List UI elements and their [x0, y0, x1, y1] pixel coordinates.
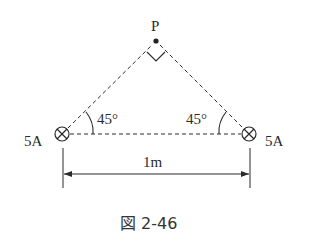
point-p-dot — [153, 38, 158, 43]
point-p-label: P — [151, 18, 159, 34]
figure-caption: 図 2-46 — [120, 214, 177, 233]
right-angle-arc — [219, 112, 226, 134]
left-wire-into-page-icon — [55, 127, 69, 141]
left-angle-label: 45° — [97, 111, 118, 127]
physics-diagram: P 5A 5A 45° 45° 1m 図 2-46 — [0, 0, 313, 247]
right-angle-label: 45° — [186, 111, 207, 127]
triangle-dashed-lines — [68, 45, 243, 134]
left-angle-arc — [86, 112, 93, 134]
distance-label: 1m — [143, 154, 163, 170]
right-current-label: 5A — [265, 133, 284, 149]
right-angle-marker — [147, 52, 165, 61]
left-current-label: 5A — [24, 133, 43, 149]
right-wire-into-page-icon — [242, 127, 256, 141]
